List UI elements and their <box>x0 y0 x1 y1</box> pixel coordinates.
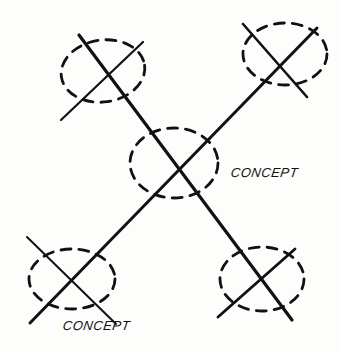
diagram-canvas: CONCEPT CONCEPT <box>0 0 342 353</box>
concept-label-center: CONCEPT <box>230 165 299 180</box>
short-line-tl <box>61 42 143 120</box>
ellipse-tl <box>57 34 149 107</box>
ellipse-tr <box>243 23 327 85</box>
concept-label-bottom: CONCEPT <box>62 318 131 333</box>
